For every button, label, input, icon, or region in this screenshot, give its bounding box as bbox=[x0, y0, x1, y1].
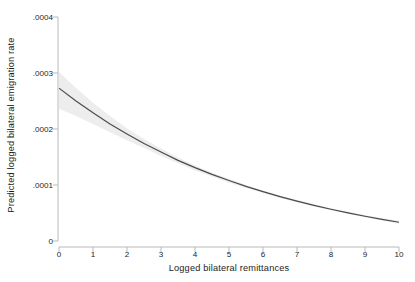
prediction-line bbox=[59, 88, 399, 222]
y-axis-tick-labels: .0004 .0003 .0002 .0001 0 bbox=[20, 0, 53, 282]
y-tick-label-0: 0 bbox=[48, 237, 53, 246]
y-tick-label-0001: .0001 bbox=[33, 181, 53, 190]
y-tick-label-0002: .0002 bbox=[33, 125, 53, 134]
axis-lines bbox=[53, 17, 399, 252]
y-axis-ticks bbox=[53, 17, 58, 241]
confidence-interval-band bbox=[59, 72, 399, 224]
x-tick-label-5: 5 bbox=[227, 250, 232, 259]
plot-area bbox=[0, 0, 415, 282]
y-axis-title: Predicted logged bilateral emigration ra… bbox=[0, 0, 22, 250]
x-tick-label-3: 3 bbox=[159, 250, 164, 259]
x-tick-label-7: 7 bbox=[295, 250, 300, 259]
y-axis-title-text: Predicted logged bilateral emigration ra… bbox=[6, 37, 16, 212]
y-tick-label-0004: .0004 bbox=[33, 13, 53, 22]
x-tick-label-10: 10 bbox=[394, 250, 403, 259]
x-tick-label-9: 9 bbox=[363, 250, 368, 259]
y-tick-label-0003: .0003 bbox=[33, 69, 53, 78]
x-tick-label-0: 0 bbox=[57, 250, 62, 259]
prediction-line-group bbox=[59, 88, 399, 222]
x-tick-label-4: 4 bbox=[193, 250, 198, 259]
chart-figure: Predicted logged bilateral emigration ra… bbox=[0, 0, 415, 282]
x-tick-label-8: 8 bbox=[329, 250, 334, 259]
x-tick-label-6: 6 bbox=[261, 250, 266, 259]
confidence-band-group bbox=[59, 72, 399, 224]
x-axis-title: Logged bilateral remittances bbox=[58, 263, 400, 273]
x-tick-label-1: 1 bbox=[91, 250, 96, 259]
x-tick-label-2: 2 bbox=[125, 250, 130, 259]
